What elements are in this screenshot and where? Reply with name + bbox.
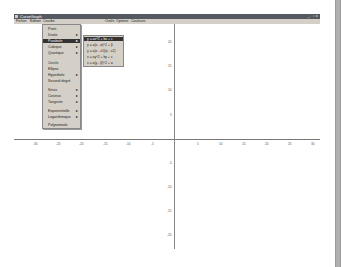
y-tick: -5: [169, 161, 172, 165]
menu-item-polynomiale[interactable]: Polynomiale: [48, 123, 78, 127]
vertical-scrollbar[interactable]: [335, 0, 341, 267]
y-tick: -20: [167, 233, 172, 237]
x-tick: -20: [79, 142, 84, 146]
submenu-arrow-icon: ▸: [76, 100, 78, 104]
menu-item-quartique[interactable]: Quartique▸: [48, 51, 78, 55]
x-tick: 5: [197, 142, 199, 146]
x-tick: -30: [33, 142, 38, 146]
x-tick: -10: [126, 142, 131, 146]
menu-item-cosinus[interactable]: Cosinus▸: [48, 94, 78, 98]
menu-item-cubique[interactable]: Cubique▸: [48, 45, 78, 49]
x-tick: 15: [242, 142, 246, 146]
x-tick: 10: [219, 142, 223, 146]
menu-item-logarithmique[interactable]: Logarithmique▸: [48, 115, 78, 119]
submenu-arrow-icon: ▸: [76, 45, 78, 49]
x-tick: 20: [265, 142, 269, 146]
menu-item-droite[interactable]: Droite▸: [48, 33, 78, 37]
y-tick: 20: [168, 40, 172, 44]
parabole-submenu: y = ax^2 + bx + c y = a(x - α)^2 + β y =…: [83, 35, 124, 67]
y-tick: 10: [168, 88, 172, 92]
submenu-arrow-icon: ▸: [76, 109, 78, 113]
submenu-arrow-icon: ▸: [76, 88, 78, 92]
menu-item-point[interactable]: Point: [48, 27, 78, 31]
submenu-item[interactable]: y = a(x - x1)(x - x2): [87, 49, 123, 53]
menu-item-hyperbole[interactable]: Hyperbole▸: [48, 73, 78, 77]
submenu-item[interactable]: x = a(y - β)^2 + α: [87, 61, 123, 65]
submenu-item[interactable]: x = ay^2 + by + c: [87, 55, 123, 59]
x-tick: -5: [151, 142, 154, 146]
submenu-item[interactable]: y = ax^2 + bx + c: [84, 37, 123, 41]
y-tick: 5: [170, 113, 172, 117]
submenu-arrow-icon: ▸: [76, 39, 78, 43]
menu-item-exponentielle[interactable]: Exponentielle▸: [48, 109, 78, 113]
menu-item-sinus[interactable]: Sinus▸: [48, 88, 78, 92]
menu-item-second-degre[interactable]: Second degré: [48, 79, 78, 83]
x-tick: -15: [103, 142, 108, 146]
submenu-arrow-icon: ▸: [76, 33, 78, 37]
y-tick: 15: [168, 64, 172, 68]
submenu-arrow-icon: ▸: [76, 115, 78, 119]
x-tick: 25: [288, 142, 292, 146]
scrollbar-track[interactable]: [336, 0, 340, 267]
y-axis: [174, 24, 175, 249]
x-tick: -25: [56, 142, 61, 146]
menu-item-tangente[interactable]: Tangente▸: [48, 100, 78, 104]
y-tick: -15: [167, 209, 172, 213]
menu-item-parabole[interactable]: Parabole▸: [43, 39, 80, 43]
submenu-item[interactable]: y = a(x - α)^2 + β: [87, 43, 123, 47]
y-tick: -10: [167, 185, 172, 189]
x-tick: 30: [311, 142, 315, 146]
menu-item-cercle[interactable]: Cercle: [48, 61, 78, 65]
app-icon: [15, 15, 18, 18]
menu-item-ellipse[interactable]: Ellipse: [48, 67, 78, 71]
courbe-menu: Point Droite▸ Parabole▸ Cubique▸ Quartiq…: [42, 24, 81, 129]
x-axis: [14, 139, 320, 140]
submenu-arrow-icon: ▸: [76, 73, 78, 77]
submenu-arrow-icon: ▸: [76, 51, 78, 55]
submenu-arrow-icon: ▸: [76, 94, 78, 98]
